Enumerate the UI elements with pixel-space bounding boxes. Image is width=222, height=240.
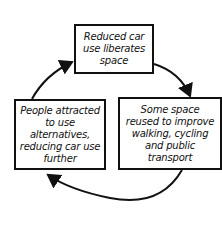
arrow-left-to-top [32,62,72,99]
node-label: Some space reused to improve walking, cy… [123,104,217,164]
node-reduced-car-use: Reduced car use liberates space [74,24,154,74]
node-label: Reduced car use liberates space [79,31,149,67]
arrow-top-to-right [154,64,190,96]
node-label: People attracted to use alternatives, re… [19,105,101,165]
node-space-reused: Some space reused to improve walking, cy… [118,97,222,170]
node-people-attracted: People attracted to use alternatives, re… [14,99,106,170]
arrow-right-to-left [48,170,182,200]
